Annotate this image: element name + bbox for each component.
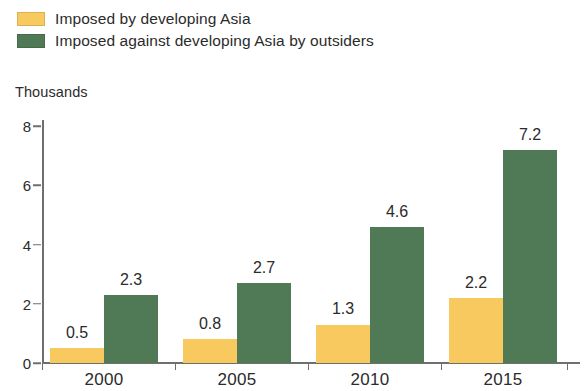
y-axis-tick-mark (33, 362, 41, 364)
bar-2005-series-0 (183, 339, 237, 363)
x-axis-tick-label-2005: 2005 (217, 370, 256, 390)
y-axis-tick-mark (33, 244, 41, 246)
bar-2000-series-1 (104, 295, 158, 363)
bar-value-label: 2.3 (120, 271, 142, 289)
y-axis-tick-label: 8 (15, 118, 31, 135)
x-axis-tick-label-2010: 2010 (350, 370, 389, 390)
bar-value-label: 1.3 (332, 300, 354, 318)
y-axis-tick-label: 0 (15, 355, 31, 372)
y-axis-tick-mark (33, 185, 41, 187)
bar-2010-series-0 (316, 325, 370, 364)
bar-value-label: 2.2 (465, 274, 487, 292)
x-axis-tick-mark (42, 363, 43, 370)
bar-2000-series-0 (50, 348, 104, 363)
bar-value-label: 7.2 (519, 126, 541, 144)
x-axis-tick-mark (441, 363, 442, 370)
x-axis-tick-mark (308, 363, 309, 370)
bar-2010-series-1 (370, 227, 424, 363)
x-axis-tick-label-2015: 2015 (483, 370, 522, 390)
bar-value-label: 4.6 (386, 203, 408, 221)
x-axis-tick-mark (175, 363, 176, 370)
y-axis-tick-mark (33, 125, 41, 127)
y-axis-tick-label: 2 (15, 295, 31, 312)
x-axis-tick-label-2000: 2000 (84, 370, 123, 390)
y-axis-tick-label: 6 (15, 177, 31, 194)
bar-value-label: 0.8 (199, 315, 221, 333)
y-axis-tick-label: 4 (15, 236, 31, 253)
bar-chart-plot-area: 02468 2000200520102015 0.52.30.82.71.34.… (0, 0, 587, 391)
y-axis-line (42, 120, 44, 363)
bar-value-label: 2.7 (253, 259, 275, 277)
bar-value-label: 0.5 (66, 324, 88, 342)
bar-2015-series-1 (503, 150, 557, 363)
x-axis-tick-mark (567, 363, 568, 370)
y-axis-tick-mark (33, 303, 41, 305)
bar-2005-series-1 (237, 283, 291, 363)
bar-2015-series-0 (449, 298, 503, 363)
